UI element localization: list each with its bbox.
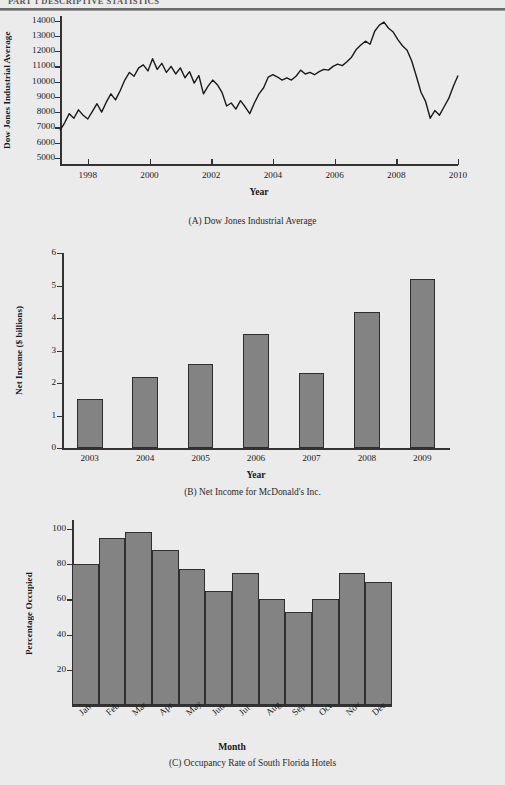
figure-b-bar — [188, 364, 214, 449]
figure-c-bar — [125, 532, 152, 705]
figure-b-bar — [354, 312, 380, 449]
figure-b-x-axis-label: Year — [62, 469, 450, 480]
figure-b-y-tick-label: 3 — [32, 346, 56, 355]
figure-c-y-tick-label: 100 — [38, 524, 66, 533]
figure-c-bar — [99, 538, 126, 705]
figure-b-x-tick-label: 2004 — [119, 454, 171, 463]
figure-b-y-tickmark — [57, 318, 63, 319]
figure-b-y-tick-label: 2 — [32, 378, 56, 387]
figure-c-x-axis-label: Month — [72, 741, 392, 752]
figure-c-plot-area: 10080604020JanFebMarAprMayJunJulAugSepOc… — [72, 520, 392, 705]
figure-b-y-tickmark — [57, 351, 63, 352]
figure-c-caption: (C) Occupancy Rate of South Florida Hote… — [0, 758, 505, 768]
figure-b-x-tick-label: 2007 — [285, 454, 337, 463]
figure-b-y-tick-label: 0 — [32, 443, 56, 452]
figure-c-bar — [232, 573, 259, 705]
figure-b-y-tick-label: 5 — [32, 281, 56, 290]
figure-b-y-tick-label: 4 — [32, 313, 56, 322]
figure-c-y-tickmark — [67, 529, 73, 530]
figure-c-y-tick-label: 40 — [38, 630, 66, 639]
figure-b-caption: (B) Net Income for McDonald's Inc. — [0, 487, 505, 497]
figure-b-y-tickmark — [57, 286, 63, 287]
figure-b-y-tick-label: 1 — [32, 411, 56, 420]
figure-c-bar — [312, 599, 339, 705]
figure-b-y-tickmark — [57, 383, 63, 384]
figure-b-x-tick-label: 2003 — [64, 454, 116, 463]
figure-c-occupancy-rate: Percentage Occupied 10080604020JanFebMar… — [0, 0, 505, 265]
figure-b-x-axis — [62, 448, 450, 450]
figure-b-x-tick-label: 2006 — [230, 454, 282, 463]
figure-b-bar — [243, 334, 269, 448]
figure-c-bar — [259, 599, 286, 705]
figure-b-y-axis-label: Net Income ($ billions) — [14, 251, 24, 450]
figure-c-bar — [285, 612, 312, 705]
figure-b-plot-area: 65432102003200420052006200720082009 — [62, 253, 450, 448]
figure-c-bar — [72, 564, 99, 705]
figure-c-y-tick-label: 80 — [38, 559, 66, 568]
figure-c-bar — [179, 569, 206, 705]
figure-b-bar — [77, 399, 103, 448]
figure-b-x-tick-label: 2005 — [175, 454, 227, 463]
figure-b-y-tickmark — [57, 448, 63, 449]
figure-c-bar — [205, 591, 232, 706]
figure-b-x-tick-label: 2009 — [396, 454, 448, 463]
figure-b-bar — [299, 373, 325, 448]
figure-c-bar — [339, 573, 366, 705]
figure-c-bar — [152, 550, 179, 705]
figure-b-bar — [410, 279, 436, 448]
figure-c-y-tick-label: 60 — [38, 594, 66, 603]
figure-b-y-tickmark — [57, 416, 63, 417]
figure-c-y-axis-label: Percentage Occupied — [24, 526, 34, 701]
figure-b-x-tick-label: 2008 — [341, 454, 393, 463]
figure-c-bar — [365, 582, 392, 705]
figure-page: PART 1 DESCRIPTIVE STATISTICS Dow Jones … — [0, 0, 505, 785]
figure-b-bar — [132, 377, 158, 449]
figure-c-y-tick-label: 20 — [38, 665, 66, 674]
